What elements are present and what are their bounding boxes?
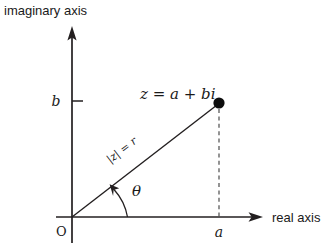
modulus-label: |z| = r (104, 134, 141, 167)
origin-label: O (56, 224, 67, 239)
argand-diagram-figure: imaginary axis real axis O b a z = a + b… (0, 0, 336, 243)
complex-plane-svg: imaginary axis real axis O b a z = a + b… (0, 0, 336, 243)
a-axis-tick-label: a (215, 224, 223, 240)
modulus-ray-line (72, 105, 217, 217)
b-axis-tick-label: b (52, 93, 61, 109)
imaginary-axis-label: imaginary axis (4, 3, 88, 18)
real-axis-label: real axis (272, 210, 321, 225)
point-z-label: z = a + bi (139, 85, 216, 103)
angle-arc (114, 190, 128, 218)
angle-theta-label: θ (132, 182, 141, 200)
